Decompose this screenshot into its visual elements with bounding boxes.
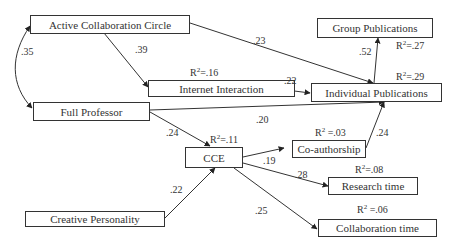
coef-ip-gp: .52: [359, 46, 372, 57]
coef-co-ip: .24: [376, 127, 389, 138]
r2-prefix: R: [315, 127, 322, 138]
node-collaboration-time: Collaboration time: [318, 219, 437, 237]
path-fp-cce-arrow: [150, 112, 210, 146]
r2-group-publications: R2=.27: [396, 39, 424, 51]
coef-acc-ip: .23: [253, 35, 266, 46]
r2-value: =.08: [365, 164, 383, 175]
r2-prefix: R: [396, 71, 403, 82]
r2-prefix: R: [210, 134, 217, 145]
r2-prefix: R: [190, 67, 197, 78]
node-active-collaboration-circle: Active Collaboration Circle: [30, 15, 190, 34]
node-group-publications: Group Publications: [317, 18, 433, 38]
r2-prefix: R: [355, 164, 362, 175]
r2-prefix: R: [396, 40, 403, 51]
r2-individual-publications: R2=.29: [396, 70, 424, 82]
r2-value: =.06: [367, 204, 388, 215]
coef-cce-co: .19: [263, 155, 276, 166]
r2-value: =.27: [406, 40, 424, 51]
r2-value: =.16: [200, 67, 218, 78]
r2-prefix: R: [357, 204, 364, 215]
node-cce: CCE: [185, 147, 243, 168]
coef-acc-fp: .35: [21, 46, 34, 57]
coef-cce-rt: .28: [295, 169, 308, 180]
r2-value: =.11: [220, 134, 238, 145]
node-internet-interaction: Internet Interaction: [148, 80, 295, 97]
path-acc-ii-arrow: [104, 33, 148, 87]
coef-cce-ct: .25: [255, 205, 268, 216]
r2-co-authorship: R2 =.03: [315, 126, 346, 138]
coef-acc-ii: .39: [135, 44, 148, 55]
node-co-authorship: Co-authorship: [292, 140, 366, 158]
r2-value: =.29: [406, 71, 424, 82]
correlation-acc-fp-arrow: [15, 26, 32, 108]
path-diagram: Active Collaboration Circle Group Public…: [0, 0, 459, 250]
r2-collaboration-time: R2 =.06: [357, 203, 388, 215]
r2-internet-interaction: R2=.16: [190, 66, 218, 78]
r2-cce: R2=.11: [210, 133, 238, 145]
node-full-professor: Full Professor: [33, 102, 150, 121]
path-fp-ip-arrow: [150, 102, 384, 110]
coef-ii-ip: .22: [284, 75, 297, 86]
path-cce-rt-arrow: [243, 163, 328, 186]
node-creative-personality: Creative Personality: [25, 211, 165, 227]
coef-fp-ip: .20: [256, 114, 269, 125]
path-co-ip-arrow: [366, 102, 384, 148]
coef-cp-cce: .22: [170, 184, 183, 195]
path-ip-gp-arrow: [374, 38, 378, 83]
coef-fp-cce: .24: [166, 127, 179, 138]
node-research-time: Research time: [328, 177, 418, 195]
r2-value: =.03: [325, 127, 346, 138]
r2-research-time: R2=.08: [355, 163, 383, 175]
node-individual-publications: Individual Publications: [311, 83, 442, 102]
